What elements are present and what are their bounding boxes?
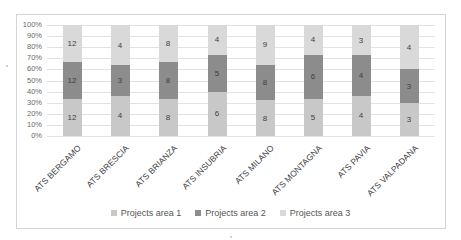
data-label: 12 <box>68 39 77 48</box>
bar-stack: 434 <box>111 25 130 136</box>
data-label: 12 <box>68 76 77 85</box>
bar-stack: 888 <box>159 25 178 136</box>
gridline <box>47 114 435 115</box>
legend-label: Projects area 1 <box>121 208 182 218</box>
data-label: 5 <box>215 69 219 78</box>
bar-segment: 9 <box>256 25 275 65</box>
data-label: 4 <box>118 111 122 120</box>
data-label: 8 <box>263 114 267 123</box>
data-label: 3 <box>359 36 363 45</box>
legend-swatch-icon <box>111 210 117 216</box>
legend: Projects area 1Projects area 2Projects a… <box>0 208 461 218</box>
bar-segment: 12 <box>63 99 82 136</box>
bar-stack: 121212 <box>63 25 82 136</box>
bar-segment: 8 <box>159 62 178 99</box>
gridline <box>47 92 435 93</box>
data-label: 3 <box>118 76 122 85</box>
data-label: 4 <box>215 35 219 44</box>
legend-label: Projects area 3 <box>290 208 351 218</box>
legend-item: Projects area 1 <box>111 208 182 218</box>
gridline <box>47 58 435 59</box>
stray-mark <box>6 65 8 67</box>
y-tick-label: 0% <box>18 132 42 140</box>
gridline <box>47 125 435 126</box>
legend-label: Projects area 2 <box>205 208 266 218</box>
bar-segment: 3 <box>400 103 419 136</box>
y-tick-label: 10% <box>18 121 42 129</box>
legend-swatch-icon <box>195 210 201 216</box>
y-tick-label: 40% <box>18 88 42 96</box>
bar-segment: 6 <box>208 92 227 136</box>
bar-segment: 8 <box>256 65 275 101</box>
legend-item: Projects area 2 <box>195 208 266 218</box>
bar-segment: 4 <box>111 25 130 65</box>
bar-segment: 12 <box>63 62 82 99</box>
data-label: 8 <box>166 39 170 48</box>
bar-segment: 3 <box>400 69 419 102</box>
bar-segment: 12 <box>63 25 82 62</box>
bar-segment: 3 <box>352 25 371 55</box>
y-tick-label: 60% <box>18 65 42 73</box>
bar-segment: 5 <box>304 99 323 136</box>
data-label: 8 <box>263 78 267 87</box>
legend-item: Projects area 3 <box>280 208 351 218</box>
y-tick-label: 20% <box>18 110 42 118</box>
gridline <box>47 103 435 104</box>
data-label: 3 <box>407 82 411 91</box>
data-label: 6 <box>311 72 315 81</box>
data-label: 4 <box>407 43 411 52</box>
gridline <box>47 81 435 82</box>
bar-segment: 3 <box>111 65 130 95</box>
y-tick-label: 30% <box>18 99 42 107</box>
bar-segment: 8 <box>159 25 178 62</box>
bar-stack: 654 <box>208 25 227 136</box>
stray-mark <box>230 236 232 238</box>
data-label: 3 <box>407 115 411 124</box>
data-label: 8 <box>166 76 170 85</box>
y-tick-label: 50% <box>18 77 42 85</box>
y-tick-label: 90% <box>18 32 42 40</box>
bar-segment: 4 <box>111 96 130 136</box>
plot-area: 121212434888654889564443334 <box>47 25 435 136</box>
y-tick-label: 70% <box>18 54 42 62</box>
bar-segment: 4 <box>352 55 371 95</box>
data-label: 4 <box>311 35 315 44</box>
bar-segment: 5 <box>208 55 227 92</box>
bar-stack: 443 <box>352 25 371 136</box>
bar-stack: 889 <box>256 25 275 136</box>
gridline <box>47 36 435 37</box>
bar-segment: 4 <box>352 96 371 136</box>
bar-segment: 4 <box>304 25 323 55</box>
bar-segment: 6 <box>304 55 323 99</box>
gridline <box>47 136 435 137</box>
gridline <box>47 25 435 26</box>
data-label: 8 <box>166 113 170 122</box>
data-label: 5 <box>311 113 315 122</box>
gridline <box>47 69 435 70</box>
y-tick-label: 100% <box>18 21 42 29</box>
legend-swatch-icon <box>280 210 286 216</box>
gridline <box>47 47 435 48</box>
bar-segment: 8 <box>256 100 275 136</box>
bar-segment: 8 <box>159 99 178 136</box>
bar-segment: 4 <box>400 25 419 69</box>
bar-stack: 564 <box>304 25 323 136</box>
bar-stack: 334 <box>400 25 419 136</box>
y-tick-label: 80% <box>18 43 42 51</box>
data-label: 9 <box>263 40 267 49</box>
data-label: 4 <box>359 111 363 120</box>
data-label: 12 <box>68 113 77 122</box>
bar-segment: 4 <box>208 25 227 55</box>
data-label: 6 <box>215 109 219 118</box>
data-label: 4 <box>359 71 363 80</box>
data-label: 4 <box>118 41 122 50</box>
